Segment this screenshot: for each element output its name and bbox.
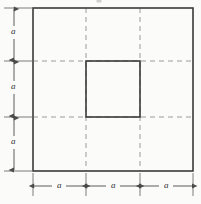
vertical-extension-lines xyxy=(4,8,33,171)
geometry-figure: a a a a a a xyxy=(0,0,201,204)
vertical-dimension-label-3: a xyxy=(10,137,17,146)
horizontal-dimension-label-3: a xyxy=(163,181,170,190)
horizontal-dimension-label-1: a xyxy=(56,181,63,190)
dashed-grid xyxy=(33,8,193,171)
horizontal-dimension-label-2: a xyxy=(110,181,117,190)
outer-square xyxy=(33,8,193,171)
figure-canvas xyxy=(0,0,201,204)
inner-square xyxy=(86,61,140,117)
vertical-dimension-label-1: a xyxy=(10,27,17,36)
vertical-dimension-label-2: a xyxy=(10,82,17,91)
top-crop-mark xyxy=(97,0,102,3)
